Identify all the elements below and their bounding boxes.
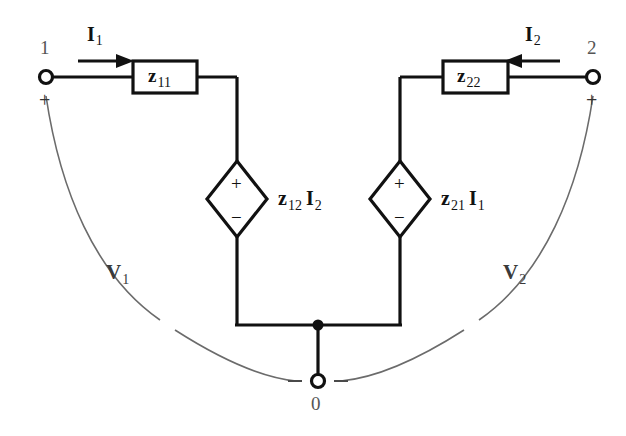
source-z12i2-label: z12 I2 [278,188,321,208]
terminal-2-node [587,71,600,84]
port-1-number: 1 [40,38,50,57]
junction-dot [313,320,324,331]
voltage-label-v1: V1 [106,262,128,283]
current-label-i1: I1 [87,24,102,44]
circuit-schematic-svg [0,0,626,436]
source-z21i1-plus: + [394,174,405,193]
circuit-diagram-canvas: 1 + 2 + 0 I1 I2 z11 z22 + − + − z12 I2 z… [0,0,626,436]
ground-node-number: 0 [311,394,321,413]
current-label-i2: I2 [525,24,540,44]
source-z12i2-minus: − [231,208,242,227]
z22-box-label: z22 [457,66,479,85]
z11-box-label: z11 [148,66,170,85]
terminal-1-node [40,71,53,84]
port-2-plus-sign: + [586,90,597,110]
voltage-arc-v1-lower [175,330,296,381]
voltage-arc-v2-lower [341,330,464,381]
current-arrow-i1 [78,54,134,68]
source-z21i1-minus: − [394,208,405,227]
current-arrow-i2 [504,54,560,68]
source-z12i2-plus: + [231,174,242,193]
port-2-number: 2 [587,38,597,57]
source-z21i1-label: z21 I1 [441,188,484,208]
voltage-label-v2: V2 [503,262,525,283]
port-1-plus-sign: + [39,90,50,110]
terminal-0-node [312,375,325,388]
voltage-arc-v2-upper [479,96,593,320]
voltage-arc-v1-upper [46,96,160,320]
